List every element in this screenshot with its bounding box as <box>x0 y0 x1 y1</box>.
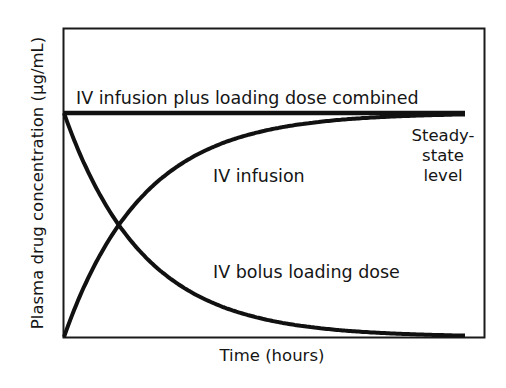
iv-infusion-curve <box>64 114 465 337</box>
bolus-label: IV bolus loading dose <box>213 262 400 282</box>
steady-state-line-3: level <box>423 166 462 185</box>
steady-state-line-1: Steady- <box>411 126 474 145</box>
combined-label: IV infusion plus loading dose combined <box>76 88 419 108</box>
curves-group <box>64 113 465 337</box>
steady-state-line-2: state <box>422 146 464 165</box>
x-axis-label: Time (hours) <box>219 346 325 365</box>
infusion-label: IV infusion <box>213 166 305 186</box>
y-axis-label: Plasma drug concentration (μg/mL) <box>28 37 47 329</box>
pharmacokinetics-chart: IV infusion plus loading dose combined I… <box>0 0 506 388</box>
steady-state-annotation: Steady- state level <box>411 126 474 185</box>
iv-bolus-curve <box>64 113 465 336</box>
